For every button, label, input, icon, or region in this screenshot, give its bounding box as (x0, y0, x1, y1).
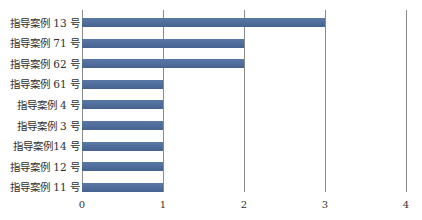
x-tick-0: 0 (72, 199, 92, 210)
category-label: 指导案例 71 号 (10, 37, 80, 49)
bar (82, 121, 163, 130)
category-label: 指导案例 3 号 (17, 120, 80, 132)
bar (82, 39, 244, 48)
gridline-4 (406, 10, 407, 192)
bar (82, 80, 163, 89)
category-label: 指导案例 61 号 (10, 78, 80, 90)
bar (82, 59, 244, 68)
bar (82, 142, 163, 151)
gridline-2 (244, 10, 245, 192)
category-label: 指导案例 11 号 (10, 181, 80, 193)
bar (82, 18, 325, 27)
category-label: 指导案例 62 号 (10, 58, 80, 70)
plot-area (82, 10, 406, 192)
gridline-1 (163, 10, 164, 192)
category-label: 指导案例 4 号 (17, 99, 80, 111)
x-tick-4: 4 (396, 199, 416, 210)
category-label: 指导案例 13 号 (10, 17, 80, 29)
x-tick-3: 3 (315, 199, 335, 210)
category-label: 指导案例 12 号 (10, 161, 80, 173)
x-tick-2: 2 (234, 199, 254, 210)
category-label: 指导案例14 号 (13, 140, 80, 152)
x-tick-1: 1 (153, 199, 173, 210)
bar (82, 162, 163, 171)
bar (82, 100, 163, 109)
bar (82, 183, 163, 192)
gridline-3 (325, 10, 326, 192)
